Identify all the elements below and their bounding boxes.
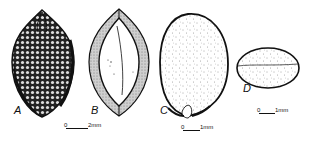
panel-label-c: C [160, 104, 168, 116]
panel-label-d: D [243, 82, 251, 94]
botanical-figure: A B C D 0 2mm 0 1mm 0 1mm [0, 0, 314, 141]
panel-label-a: A [14, 104, 21, 116]
panel-b-seed-section [89, 9, 149, 116]
figure-drawings [0, 0, 314, 141]
panel-label-b: B [91, 104, 98, 116]
scale-bar-2mm: 0 2mm [64, 123, 110, 133]
scale-bar-end: 1mm [200, 124, 213, 130]
scale-bar-line [66, 128, 88, 129]
scale-bar-line [259, 113, 275, 114]
panel-c-embryo [160, 14, 228, 118]
scale-bar-1mm-d: 0 1mm [257, 108, 297, 118]
scale-bar-end: 1mm [275, 107, 288, 113]
panel-a-seed-exterior [12, 10, 74, 117]
scale-bar-end: 2mm [88, 122, 101, 128]
scale-bar-line [183, 130, 200, 131]
scale-bar-1mm-c: 0 1mm [181, 125, 221, 135]
